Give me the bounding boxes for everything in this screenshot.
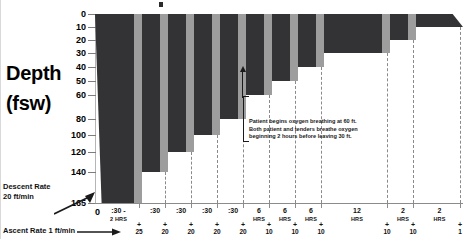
duration-value: :30 -	[111, 207, 125, 214]
duration-unit: HRS	[305, 215, 317, 223]
descent-rate-arrow-icon	[54, 192, 95, 216]
stop-riser-strip	[264, 14, 272, 95]
x-axis-duration-label: :30	[202, 207, 212, 215]
chart-root: Depth (fsw) 0102030405060801001201401650…	[0, 0, 468, 239]
x-axis-duration-label: 6HRS	[279, 207, 291, 223]
depth-stop-bar	[416, 14, 463, 27]
title-fragment-mark	[159, 2, 163, 7]
ascent-minutes-value: 20	[187, 228, 194, 235]
y-axis-tick-label: 10	[76, 22, 86, 32]
x-axis-duration-label: :30	[228, 207, 238, 215]
descent-rate-label: Descent Rate 20 ft/min	[3, 182, 51, 202]
x-axis-tick-mark	[321, 203, 322, 208]
ascent-minutes-value: 1	[458, 228, 462, 235]
x-axis-ascent-minutes-label: +25	[135, 221, 142, 235]
ascent-minutes-value: 20	[213, 228, 220, 235]
x-axis-ascent-minutes-label: +20	[187, 221, 194, 235]
segment-divider-dashed-line	[165, 172, 166, 203]
x-axis-tick-mark	[243, 203, 244, 208]
x-axis-duration-label: 2HRS	[397, 207, 409, 223]
ascent-minutes-value: 10	[383, 228, 390, 235]
x-axis-tick-mark	[295, 203, 296, 208]
stop-riser-strip	[186, 14, 194, 152]
ascent-rate-arrow-icon	[77, 228, 121, 236]
x-axis-ascent-minutes-label: +10	[317, 221, 324, 235]
y-axis-tick-label: 100	[71, 130, 86, 140]
duration-value: 2	[401, 207, 405, 214]
segment-divider-dashed-line	[269, 95, 270, 203]
segment-divider-dashed-line	[460, 27, 461, 203]
x-axis-tick-mark	[387, 203, 388, 208]
x-axis-duration-label: 6HRS	[253, 207, 265, 223]
x-axis-ascent-minutes-label: +1	[458, 221, 462, 235]
duration-unit: HRS	[253, 215, 265, 223]
stop-riser-strip	[316, 14, 324, 67]
ascent-plus-sign: +	[265, 221, 272, 228]
x-axis-line	[95, 203, 463, 204]
y-axis-tick-label: 40	[76, 62, 86, 72]
y-axis-tick-label: 120	[71, 147, 86, 157]
depth-stop-bar	[324, 14, 390, 53]
ascent-plus-sign: +	[458, 221, 462, 228]
x-axis-tick-mark	[191, 203, 192, 208]
x-axis-duration-label: 12HRS	[351, 207, 363, 223]
y-axis-tick-label: 80	[76, 114, 86, 124]
x-axis-ascent-minutes-label: +10	[291, 221, 298, 235]
x-axis-duration-label: :30	[176, 207, 186, 215]
ascent-minutes-value: 10	[317, 228, 324, 235]
x-axis-ascent-minutes-label: +10	[265, 221, 272, 235]
duration-value: 6	[257, 207, 261, 214]
y-axis-tick-label: 50	[76, 76, 86, 86]
ascent-minutes-value: 10	[265, 228, 272, 235]
ascent-plus-sign: +	[291, 221, 298, 228]
x-axis-ascent-minutes-label: +20	[239, 221, 246, 235]
y-axis-tick-label: 0	[81, 9, 86, 19]
stop-riser-strip	[408, 14, 416, 40]
x-axis-tick-mark	[139, 203, 140, 208]
duration-unit: HRS	[397, 215, 409, 223]
ascent-plus-sign: +	[239, 221, 246, 228]
duration-value: 6	[283, 207, 287, 214]
left-frame-edge	[0, 0, 1, 239]
y-axis-tick-label: 60	[76, 90, 86, 100]
x-axis-tick-mark	[217, 203, 218, 208]
stop-riser-strip	[134, 14, 142, 203]
descent-rate-value: 20 ft/min	[3, 192, 34, 201]
ascent-rate-label: Ascent Rate 1 ft/min	[3, 226, 75, 235]
x-axis-tick-mark	[269, 203, 270, 208]
ascent-plus-sign: +	[213, 221, 220, 228]
ascent-minutes-value: 10	[409, 228, 416, 235]
ascent-plus-sign: +	[383, 221, 390, 228]
x-axis-ascent-minutes-label: +20	[161, 221, 168, 235]
stop-riser-strip	[290, 14, 298, 81]
x-axis-ascent-minutes-label: +10	[383, 221, 390, 235]
segment-divider-dashed-line	[191, 152, 192, 203]
oxygen-note-arrow-icon	[242, 71, 243, 98]
x-axis-duration-label: :30	[150, 207, 160, 215]
stop-riser-strip	[212, 14, 220, 135]
duration-unit: HRS	[279, 215, 291, 223]
x-axis-tick-mark	[460, 203, 461, 208]
x-axis-origin-label: 0	[95, 207, 100, 217]
x-axis-tick-mark	[165, 203, 166, 208]
x-axis-duration-label: 6HRS	[305, 207, 317, 223]
ascent-plus-sign: +	[135, 221, 142, 228]
duration-value: 2	[438, 207, 442, 214]
stop-riser-strip	[382, 14, 390, 53]
segment-divider-dashed-line	[217, 135, 218, 203]
ascent-minutes-value: 20	[161, 228, 168, 235]
y-axis-title-depth: Depth	[6, 62, 61, 85]
duration-value: 6	[309, 207, 313, 214]
duration-unit: 2 HRS	[110, 215, 127, 223]
ascent-minutes-value: 20	[239, 228, 246, 235]
segment-divider-dashed-line	[413, 40, 414, 203]
plot-area	[95, 14, 463, 203]
y-axis-tick-label: 20	[76, 35, 86, 45]
ascent-plus-sign: +	[409, 221, 416, 228]
x-axis-duration-label: :30 -2 HRS	[110, 207, 127, 223]
x-axis-tick-mark	[413, 203, 414, 208]
ascent-minutes-value: 25	[135, 228, 142, 235]
duration-unit: HRS	[351, 215, 363, 223]
stop-riser-strip	[160, 14, 168, 172]
duration-value: 12	[353, 207, 361, 214]
